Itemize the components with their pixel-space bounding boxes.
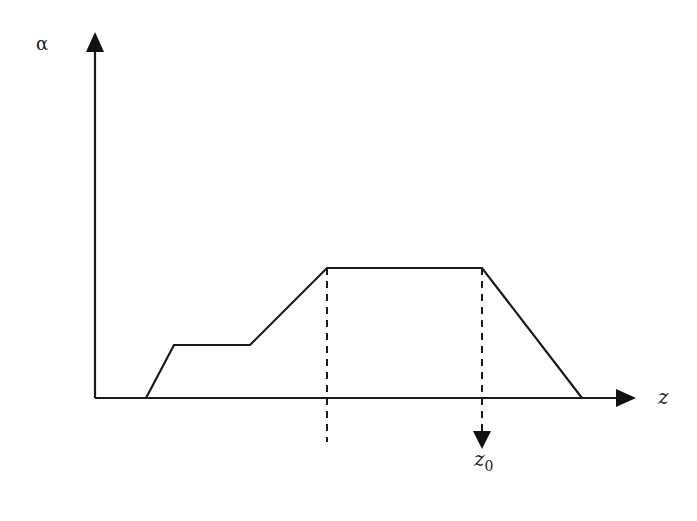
z0-label: z0 — [473, 447, 493, 474]
z0-label-base: z — [473, 447, 485, 471]
x-axis-arrow-icon — [616, 389, 636, 407]
y-axis-label: α — [36, 33, 48, 54]
diagram-canvas: α z z0 — [0, 0, 697, 521]
y-axis-arrow-icon — [86, 32, 104, 52]
alpha-profile-line — [146, 268, 582, 398]
x-axis-label: z — [657, 385, 669, 409]
z0-label-subscript: 0 — [485, 458, 494, 474]
